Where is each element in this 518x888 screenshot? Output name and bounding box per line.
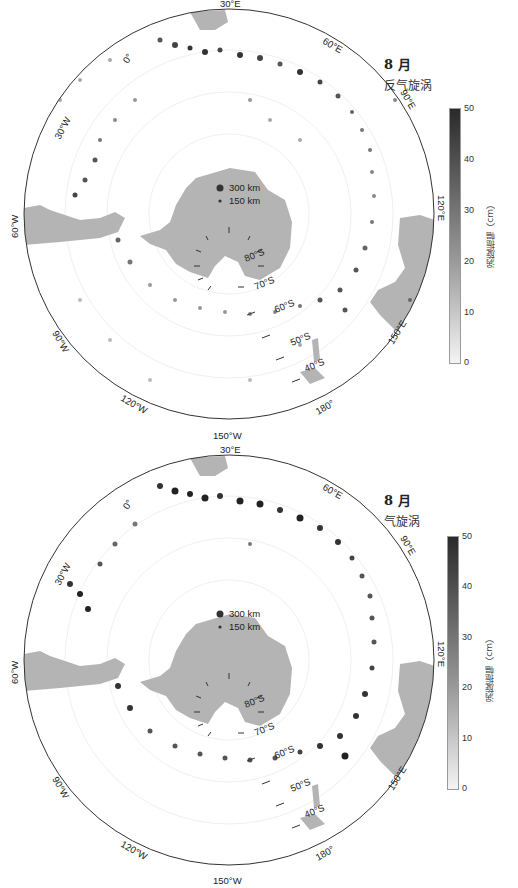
lon-label-60e: 60°E [321,35,344,55]
lat-label-60s: 60°S [273,297,296,315]
colorbar [447,536,459,790]
legend-large-marker [217,185,224,192]
australia-landmass [370,661,435,781]
cbar-tick-50: 50 [462,531,472,541]
legend-small-marker [218,625,221,628]
colorbar [449,108,461,364]
antarctica-landmass [140,614,292,726]
panel-anticyclone: 300 km 150 km 80°S 70°S 60°S 50°S 40°S 3… [0,0,518,444]
cbar-tick-50: 50 [464,103,474,113]
legend-large-label: 300 km [229,608,260,619]
cbar-tick-20: 20 [464,256,474,266]
lon-label-30e: 30°E [220,0,241,9]
cbar-tick-40: 40 [462,581,472,591]
legend-large-label: 300 km [229,182,260,193]
lon-label-90w: 90°W [50,329,71,355]
lon-label-120e: 120°E [436,195,447,221]
legend-small-label: 150 km [229,621,260,632]
lat-label-60s: 60°S [273,743,296,761]
lon-label-60w: 60°W [9,215,20,238]
lon-label-90e: 90°E [398,534,418,557]
lon-label-60w: 60°W [9,661,20,684]
lon-label-0: 0° [120,497,134,511]
cbar-tick-20: 20 [462,682,472,692]
cbar-tick-0: 0 [464,357,469,367]
cbar-tick-30: 30 [464,205,474,215]
polar-map-anticyclone: 300 km 150 km 80°S 70°S 60°S 50°S 40°S 3… [0,0,518,444]
legend-large-marker [217,611,224,618]
legend-small-label: 150 km [229,195,260,206]
cbar-tick-30: 30 [462,632,472,642]
colorbar-label: 涡旋振幅（cm） [482,634,495,702]
lon-label-150w: 150°W [213,430,242,441]
month-label: 8 月 [384,54,411,73]
month-label: 8 月 [384,490,411,509]
lon-label-90w: 90°W [50,775,71,801]
cbar-tick-0: 0 [462,783,467,793]
africa-landmass [190,10,228,30]
lon-label-0: 0° [120,51,134,65]
africa-landmass [190,456,228,476]
antarctica-landmass [140,168,292,280]
cbar-tick-10: 10 [464,307,474,317]
lon-label-30e: 30°E [220,444,241,455]
cbar-tick-40: 40 [464,154,474,164]
lon-label-180: 180° [314,397,337,416]
eddy-type-label: 反气旋涡 [384,76,432,93]
panel-cyclone: 300 km 150 km 80°S 70°S 60°S 50°S 40°S 3… [0,444,518,888]
lon-label-60e: 60°E [321,481,344,501]
lon-label-180: 180° [314,843,337,862]
lat-label-50s: 50°S [289,776,312,794]
colorbar-label: 涡旋振幅（cm） [483,200,496,268]
polar-map-cyclone: 300 km 150 km 80°S 70°S 60°S 50°S 40°S 3… [0,444,518,888]
eddy-type-label: 气旋涡 [384,512,420,529]
cbar-tick-10: 10 [462,733,472,743]
lon-label-30w: 30°W [52,115,73,141]
legend-small-marker [218,199,221,202]
lon-label-120e: 120°E [436,641,447,667]
lon-label-150w: 150°W [213,875,242,886]
australia-landmass [370,215,435,335]
